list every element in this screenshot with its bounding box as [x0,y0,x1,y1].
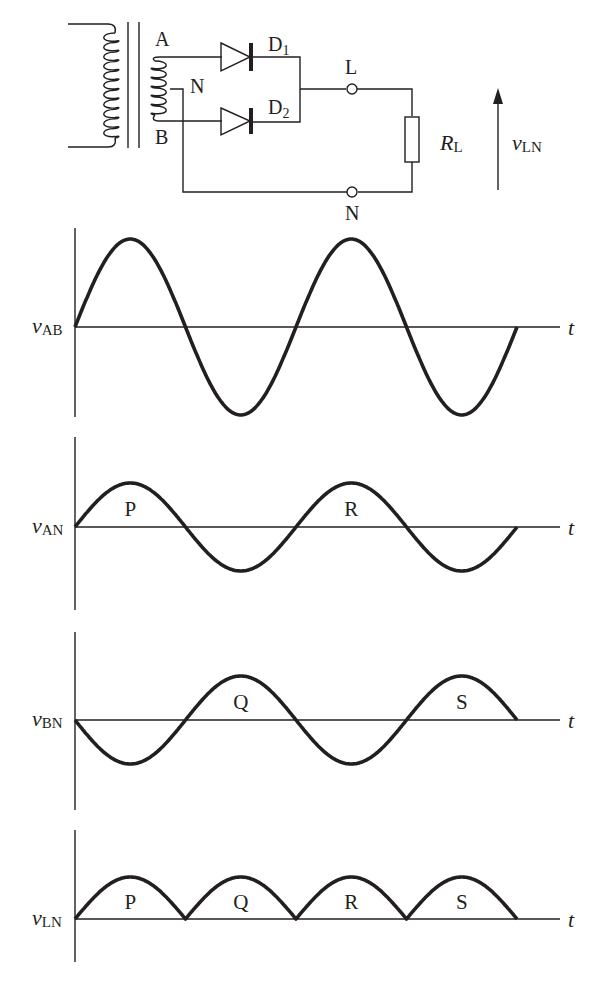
load-resistor [405,117,419,162]
y-axis-label: vAN [32,513,64,538]
terminal-l [347,84,357,94]
graph-vbn: vBNtQS [32,632,575,810]
region-label-q: Q [233,690,248,714]
t-axis-label: t [568,708,575,733]
diode-d2 [221,108,251,135]
label-terminal-n: N [345,202,359,224]
y-axis-label: vBN [32,706,63,731]
waveform-line [75,877,517,919]
waveform-graphs: vABtvANtPRvBNtQSvLNtPQRS [32,228,575,962]
label-terminal-l: L [345,56,357,78]
label-d2: D2 [268,96,289,121]
label-vln: vLN [512,130,542,155]
y-axis-label: vAB [32,313,63,338]
label-a: A [155,28,170,50]
region-label-r: R [344,497,358,521]
region-label-s: S [456,690,468,714]
label-rl: RL [439,130,463,155]
t-axis-label: t [568,907,575,932]
y-axis-label: vLN [32,905,62,930]
t-axis-label: t [568,315,575,340]
rectifier-figure: A N B D1 D2 L N RL vLN vABtvANtPRvBNtQSv… [0,0,612,987]
graph-van: vANtPR [32,437,575,610]
region-label-p: P [124,890,136,914]
region-label-r: R [344,890,358,914]
transformer-secondary-coil [151,57,355,192]
t-axis-label: t [568,515,575,540]
graph-vab: vABt [32,228,575,417]
label-d1: D1 [268,33,289,58]
region-label-q: Q [233,890,248,914]
transformer-primary-coil [68,24,119,147]
region-label-s: S [456,890,468,914]
label-n-tap: N [190,75,204,97]
label-b: B [155,126,168,148]
terminal-n [347,187,357,197]
region-label-p: P [124,497,136,521]
graph-vln: vLNtPQRS [32,830,575,962]
